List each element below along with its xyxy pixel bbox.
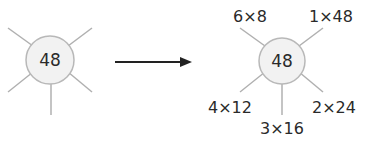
spoke-bottom-left <box>240 72 265 92</box>
spoke-bottom-right <box>299 72 323 92</box>
factor-pair-top-left: 6×8 <box>233 7 267 26</box>
spoke-top-left <box>8 28 33 46</box>
spoke-top-left <box>240 28 265 46</box>
factor-diagram: 48 48 6×8 1×48 4×12 3×16 2×24 <box>0 0 365 145</box>
left-factor-web: 48 <box>8 28 92 115</box>
spoke-top-right <box>68 28 92 46</box>
factor-pair-bottom-right: 2×24 <box>312 98 356 117</box>
arrow-icon <box>115 57 192 67</box>
factor-pair-bottom-left: 4×12 <box>208 98 252 117</box>
spoke-bottom-left <box>8 72 33 92</box>
right-factor-web: 48 6×8 1×48 4×12 3×16 2×24 <box>208 7 356 138</box>
factor-pair-bottom: 3×16 <box>260 119 304 138</box>
right-center-value: 48 <box>271 51 293 71</box>
spoke-bottom-right <box>68 72 92 92</box>
factor-pair-top-right: 1×48 <box>309 7 353 26</box>
spoke-top-right <box>299 28 323 46</box>
left-center-value: 48 <box>39 50 61 70</box>
